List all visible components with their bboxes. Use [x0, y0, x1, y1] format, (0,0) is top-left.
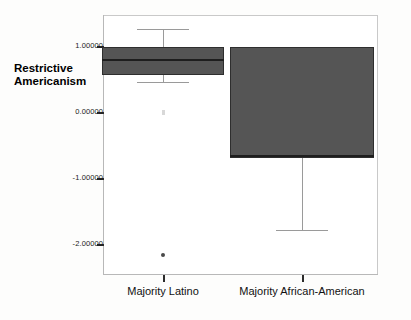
y-tick-label-3: -1.00000 [47, 173, 103, 182]
y-tick-label-4: -2.00000 [47, 239, 103, 248]
x-axis-label-majority-african-american: Majority African-American [222, 285, 382, 297]
whisker-cap-lower-african-american [276, 230, 328, 231]
box-latino [102, 47, 224, 75]
median-line-latino [102, 59, 224, 61]
box-african-american [230, 47, 374, 158]
whisker-stem-lower-african-american [302, 158, 303, 230]
x-axis-label-majority-latino: Majority Latino [103, 285, 223, 297]
y-axis-tick-group: 1.00000 0.00000 -1.00000 -2.00000 [0, 0, 103, 320]
median-line-african-american [230, 155, 374, 157]
y-tick-label-2: 0.00000 [47, 107, 103, 116]
x-tick-mark-2 [302, 275, 304, 282]
x-axis-line [103, 274, 378, 275]
boxplot-figure: Restrictive Americanism 1.00000 0.00000 … [0, 0, 411, 320]
y-tick-label-1: 1.00000 [47, 41, 103, 50]
x-tick-mark-1 [163, 275, 165, 282]
whisker-stem-lower-latino [163, 75, 164, 82]
whisker-stem-upper-latino [163, 29, 164, 47]
whisker-cap-lower-latino [137, 82, 189, 83]
whisker-cap-upper-latino [137, 29, 189, 30]
faint-marker-latino [162, 110, 165, 115]
outlier-point-latino [161, 253, 165, 257]
